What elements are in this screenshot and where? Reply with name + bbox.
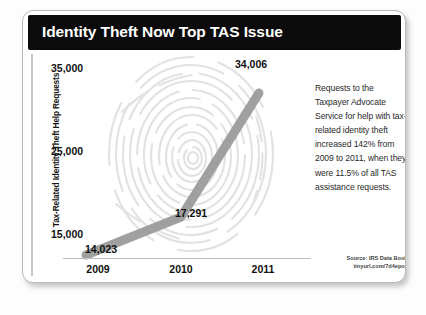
source-credit: Source: IRS Data Book, tinyurl.com/7d4ep… <box>313 255 406 270</box>
x-axis-line <box>63 258 311 259</box>
data-label-2011: 34,006 <box>235 58 267 70</box>
source-line-2: tinyurl.com/7d4epov. <box>313 263 406 271</box>
infographic-card: Identity Theft Now Top TAS Issue Tax-Rel… <box>22 10 406 283</box>
page-title: Identity Theft Now Top TAS Issue <box>42 23 283 41</box>
description-text: Requests to the Taxpayer Advocate Servic… <box>315 81 406 194</box>
title-bar: Identity Theft Now Top TAS Issue <box>28 15 401 50</box>
page-background: Identity Theft Now Top TAS Issue Tax-Rel… <box>0 0 426 315</box>
chart-plot-area: Tax-Related Identity Theft Help Requests… <box>23 50 405 282</box>
data-label-2009: 14,023 <box>85 243 117 255</box>
data-label-2010: 17,291 <box>175 207 207 219</box>
x-axis-tick-label: 2009 <box>68 263 128 275</box>
x-axis-tick-label: 2010 <box>151 263 211 275</box>
x-axis-tick-label: 2011 <box>233 263 293 275</box>
source-line-1: Source: IRS Data Book, <box>313 255 406 263</box>
